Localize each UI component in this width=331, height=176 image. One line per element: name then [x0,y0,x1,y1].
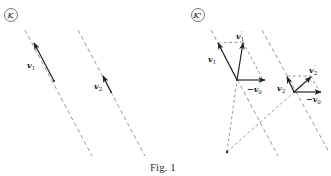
parallelogram-1-top [218,42,243,43]
vector-v2: v2 [277,77,294,94]
label-v1: v1 [208,54,216,65]
origin-2 [293,91,295,93]
label-v2: v2 [94,81,102,92]
arrow-v2 [103,76,111,92]
vector-v1: v1 [208,43,237,80]
arrow-v1-prime [237,43,243,80]
vector-v2-prime: v2′ [294,64,317,92]
arrow-v1 [218,43,237,80]
frame-label-k-prime: K' [192,9,205,22]
frame-label-text: K [7,11,15,20]
label-v2-prime: v2′ [309,64,317,76]
label-v1-prime: v1′ [236,30,244,42]
figure-caption: Fig. 1 [150,161,176,173]
construction-line-to-origin-2 [227,92,294,152]
vector-v2: v2 [94,76,112,93]
frame-label-k: K [5,9,18,22]
origin-1 [236,79,238,81]
frame-label-text: K' [193,11,202,20]
panel-left: K v1 v2 [5,9,146,157]
parallelogram-2-side [311,76,319,91]
label-minus-v0: −v0 [247,84,262,95]
label-v2: v2 [277,83,285,94]
vector-minus-v0-2: −v0 [294,92,321,105]
arrow-v1 [34,43,54,81]
point-2 [110,91,112,93]
trajectory-line-1 [25,30,92,156]
label-minus-v0: −v0 [306,94,321,105]
common-point [226,151,228,153]
point-1 [53,80,55,82]
label-v1: v1 [27,60,35,71]
arrow-v2-prime [294,77,311,92]
construction-line-to-origin-1 [227,80,237,152]
figure-diagram: K v1 v2 K' v1 [0,0,331,176]
panel-right: K' v1 v1′ −v0 v2 [192,9,330,157]
parallelogram-1-side [243,42,262,78]
vector-v1: v1 [27,43,55,82]
trajectory-line-2 [78,30,145,156]
arrow-v2 [287,77,294,92]
vector-v1-prime: v1′ [236,30,244,80]
